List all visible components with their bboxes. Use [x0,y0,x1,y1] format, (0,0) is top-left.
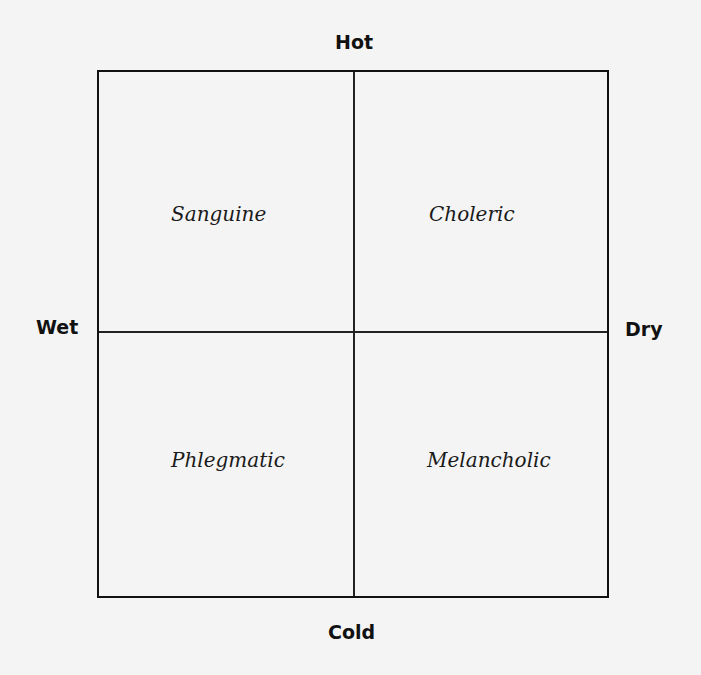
axis-label-wet: Wet [36,316,78,338]
axis-label-hot: Hot [335,31,373,53]
horizontal-divider [99,331,607,333]
temperament-grid: Sanguine Choleric Phlegmatic Melancholic [97,70,609,598]
quadrant-sanguine: Sanguine [171,202,266,226]
quadrant-phlegmatic: Phlegmatic [171,448,285,472]
quadrant-choleric: Choleric [429,202,515,226]
quadrant-melancholic: Melancholic [427,448,551,472]
axis-label-cold: Cold [328,621,375,643]
axis-label-dry: Dry [625,318,663,340]
vertical-divider [353,72,355,596]
